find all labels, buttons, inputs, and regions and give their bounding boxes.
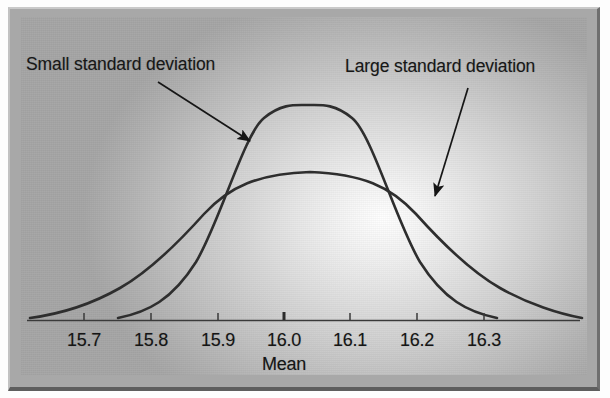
annotation-label-large-standard-deviation: Large standard deviation [345, 56, 535, 77]
axis-tick-label: 16.2 [384, 330, 450, 351]
axis-tick-label: 16.3 [451, 330, 517, 351]
figure-root: Small standard deviation Large standard … [0, 0, 610, 398]
axis-tick-label: 16.1 [317, 330, 383, 351]
annotation-label-small-standard-deviation: Small standard deviation [26, 54, 215, 75]
axis-tick-label: 15.7 [51, 330, 117, 351]
axis-tick-label: 15.8 [118, 330, 184, 351]
axis-title: Mean [214, 354, 354, 375]
axis-tick-label: 15.9 [185, 330, 251, 351]
axis-tick-label: 16.0 [251, 330, 317, 351]
